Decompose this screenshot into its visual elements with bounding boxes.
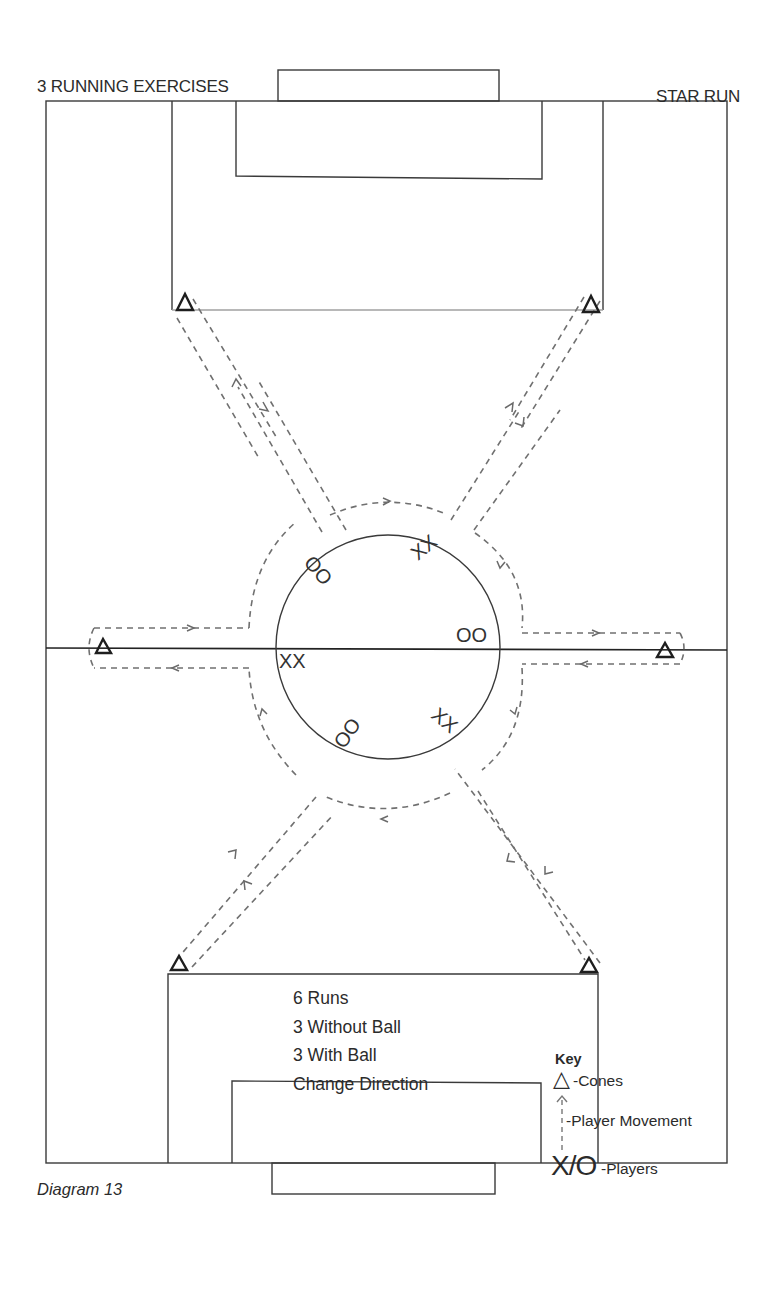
- note-line: 3 With Ball: [293, 1041, 428, 1070]
- drill-notes: 6 Runs 3 Without Ball 3 With Ball Change…: [293, 984, 428, 1098]
- top-goal-area: [236, 101, 542, 179]
- key-title: Key: [555, 1051, 582, 1067]
- note-line: 3 Without Ball: [293, 1013, 428, 1042]
- cone-icon: [171, 956, 187, 970]
- note-line: 6 Runs: [293, 984, 428, 1013]
- cone-icon: [177, 294, 193, 310]
- bottom-goal: [272, 1163, 495, 1194]
- halfway-line: [46, 648, 727, 650]
- cone-icon: [96, 639, 111, 653]
- key-players-icon: X/O: [551, 1150, 596, 1182]
- key-movement-label: -Player Movement: [566, 1112, 692, 1130]
- players-oo-right: OO: [456, 625, 487, 645]
- drill-name: STAR RUN: [656, 87, 740, 107]
- cone-icon: [581, 958, 597, 972]
- movement-paths: [89, 297, 684, 967]
- key-cone-icon: △: [553, 1066, 570, 1092]
- note-line: Change Direction: [293, 1070, 428, 1099]
- direction-arrows: [172, 379, 599, 890]
- players-xx-left: XX: [279, 651, 306, 671]
- cones: [96, 294, 673, 972]
- top-goal: [278, 70, 499, 101]
- key-players-label: -Players: [601, 1160, 658, 1178]
- key-cones-label: -Cones: [573, 1072, 623, 1090]
- exercise-title: 3 RUNNING EXERCISES: [37, 77, 229, 97]
- diagram-caption: Diagram 13: [37, 1180, 122, 1199]
